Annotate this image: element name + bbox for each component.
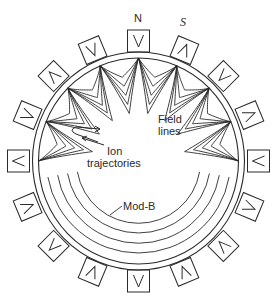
magnet-box	[170, 258, 199, 287]
south-pole-label: S	[180, 16, 186, 28]
mod-b-contour	[77, 172, 199, 223]
magnet-box	[78, 258, 107, 287]
ion-trajectory-incoming	[82, 138, 104, 145]
multipole-diagram	[0, 0, 277, 304]
field-line	[139, 58, 177, 104]
magnet	[78, 36, 107, 65]
magnet-box	[128, 270, 150, 292]
magnet-box	[13, 101, 42, 130]
magnet	[38, 61, 69, 92]
magnet	[248, 150, 270, 172]
diagram-canvas: N S Field lines Ion trajectories Mod-B	[0, 0, 277, 304]
magnet-box	[248, 150, 270, 172]
field-line	[193, 122, 238, 161]
magnet-box	[78, 36, 107, 65]
field-line	[177, 66, 209, 98]
magnet-box	[235, 193, 264, 222]
field-line	[207, 88, 230, 121]
field-line	[177, 66, 209, 90]
magnet	[170, 258, 199, 287]
magnet-box	[208, 61, 239, 92]
magnet-box	[38, 61, 69, 92]
magnet-box	[13, 193, 42, 222]
magnet	[8, 150, 30, 172]
magnet	[13, 101, 42, 130]
north-pole-label: N	[134, 12, 142, 24]
magnet-box	[208, 230, 239, 261]
ion-trajectories-label-line1: Ion	[107, 145, 122, 157]
magnet-box	[38, 230, 69, 261]
magnet	[208, 61, 239, 92]
field-line	[68, 66, 100, 90]
magnet	[170, 36, 199, 65]
magnet	[128, 30, 150, 52]
field-line	[100, 58, 138, 104]
mod-b-contour	[48, 177, 229, 253]
mod-b-label: Mod-B	[123, 200, 155, 212]
magnet	[13, 193, 42, 222]
magnet-box	[128, 30, 150, 52]
magnet	[128, 270, 150, 292]
field-line	[68, 66, 100, 98]
mod-b-leader	[110, 206, 122, 215]
magnet	[208, 230, 239, 261]
magnet-box	[235, 101, 264, 130]
field-line	[46, 88, 69, 121]
field-lines-label-line2: lines	[158, 125, 181, 137]
magnet	[235, 101, 264, 130]
label-leaders	[110, 206, 122, 215]
magnet	[38, 230, 69, 261]
field-lines-label-line1: Field	[158, 113, 182, 125]
ion-trajectories-label-line2: trajectories	[87, 157, 141, 169]
field-lines	[39, 58, 239, 161]
magnet-box	[8, 150, 30, 172]
magnet-box	[170, 36, 199, 65]
magnet	[78, 258, 107, 287]
magnet	[235, 193, 264, 222]
